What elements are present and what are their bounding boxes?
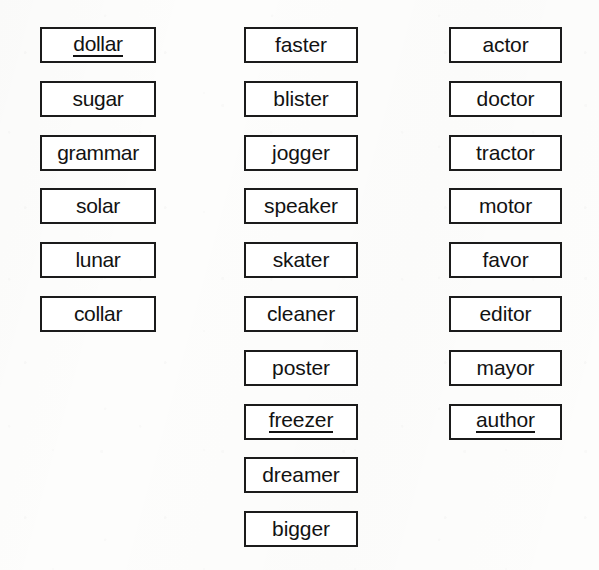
word-label-underlined: freezer (269, 409, 334, 433)
word-box[interactable]: dollar (40, 27, 156, 63)
word-box[interactable]: speaker (244, 188, 358, 224)
word-label: blister (273, 88, 328, 109)
word-box[interactable]: skater (244, 242, 358, 278)
word-box[interactable]: lunar (40, 242, 156, 278)
word-box[interactable]: editor (449, 296, 562, 332)
word-box[interactable]: dreamer (244, 457, 358, 493)
word-label: doctor (477, 88, 535, 109)
word-box[interactable]: poster (244, 350, 358, 386)
word-label: tractor (476, 142, 535, 163)
word-box[interactable]: actor (449, 27, 562, 63)
word-box[interactable]: tractor (449, 135, 562, 171)
word-label: cleaner (267, 303, 335, 324)
word-box[interactable]: solar (40, 188, 156, 224)
word-label: motor (479, 195, 532, 216)
word-box[interactable]: grammar (40, 135, 156, 171)
word-label-underlined: author (476, 409, 535, 433)
word-label: jogger (272, 142, 330, 163)
word-column-3: actordoctortractormotorfavoreditormayora… (449, 27, 562, 440)
word-label: grammar (57, 142, 139, 163)
word-box[interactable]: author (449, 404, 562, 440)
word-box[interactable]: sugar (40, 81, 156, 117)
word-label: solar (76, 195, 120, 216)
word-label: favor (482, 249, 528, 270)
word-column-1: dollarsugargrammarsolarlunarcollar (40, 27, 156, 332)
word-label: speaker (264, 195, 338, 216)
word-label: dreamer (262, 464, 340, 485)
word-box[interactable]: jogger (244, 135, 358, 171)
word-box[interactable]: favor (449, 242, 562, 278)
word-box[interactable]: bigger (244, 511, 358, 547)
word-box[interactable]: doctor (449, 81, 562, 117)
word-box[interactable]: motor (449, 188, 562, 224)
word-box[interactable]: freezer (244, 404, 358, 440)
word-label: sugar (73, 88, 124, 109)
word-label: mayor (477, 357, 535, 378)
word-label: editor (480, 303, 532, 324)
word-box[interactable]: collar (40, 296, 156, 332)
word-box[interactable]: faster (244, 27, 358, 63)
word-label: actor (482, 34, 528, 55)
word-label: bigger (272, 518, 330, 539)
word-label: poster (272, 357, 330, 378)
word-label-underlined: dollar (73, 33, 122, 57)
word-box[interactable]: cleaner (244, 296, 358, 332)
word-box[interactable]: blister (244, 81, 358, 117)
word-box[interactable]: mayor (449, 350, 562, 386)
word-label: lunar (76, 249, 121, 270)
word-label: faster (275, 34, 327, 55)
word-column-2: fasterblisterjoggerspeakerskatercleanerp… (244, 27, 358, 547)
word-label: collar (74, 303, 122, 324)
worksheet-sheet: dollarsugargrammarsolarlunarcollar faste… (0, 0, 599, 570)
word-label: skater (273, 249, 330, 270)
